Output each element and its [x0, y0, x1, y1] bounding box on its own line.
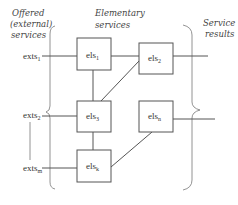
svg-text:extsm: extsm — [23, 163, 43, 174]
service-composition-diagram: Offered (external) services Elementary s… — [0, 0, 238, 205]
header-elementary-services: Elementary services — [94, 8, 145, 30]
header-service-results: Service results — [203, 18, 235, 39]
elementary-service-els3: els3 — [77, 101, 111, 132]
svg-text:exts1: exts1 — [23, 51, 41, 62]
svg-text:(external): (external) — [10, 19, 52, 29]
svg-text:services: services — [11, 30, 47, 40]
svg-text:results: results — [205, 29, 235, 39]
connector-elsk-elsn — [111, 132, 152, 167]
elementary-service-elsn: elsn — [139, 101, 173, 132]
svg-text:exts2: exts2 — [23, 110, 41, 121]
right-brace — [183, 25, 200, 190]
svg-text:Elementary: Elementary — [94, 8, 145, 18]
external-service-exts2: exts2 — [23, 110, 41, 121]
elementary-service-els2: els2 — [139, 43, 173, 74]
external-service-extsm: extsm — [23, 163, 43, 174]
left-brace — [46, 26, 55, 189]
external-service-exts1: exts1 — [23, 51, 41, 62]
svg-text:services: services — [95, 20, 131, 30]
elementary-service-els1: els1 — [77, 38, 111, 70]
elementary-service-elsk: elsk — [77, 150, 111, 182]
svg-text:Service: Service — [203, 18, 235, 28]
header-offered-external-services: Offered (external) services — [10, 8, 52, 40]
svg-text:Offered: Offered — [12, 8, 45, 18]
